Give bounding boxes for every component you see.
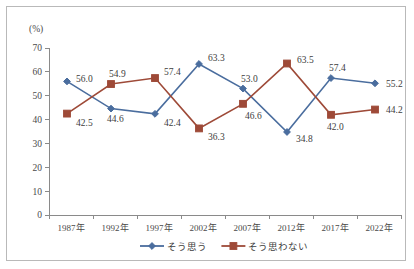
data-value-label: 44.2 (386, 105, 403, 115)
data-value-label: 42.0 (327, 122, 344, 132)
data-value-label: 63.5 (297, 55, 314, 65)
x-tick-label: 1997年 (146, 222, 173, 233)
data-value-label: 56.0 (76, 74, 93, 84)
y-tick-label: 0 (37, 210, 42, 220)
data-value-label: 54.9 (109, 69, 126, 79)
data-value-label: 44.6 (107, 114, 124, 124)
x-tick-label: 1992年 (102, 222, 129, 233)
data-point-marker-square (196, 125, 203, 132)
y-axis-unit-label: (%) (29, 24, 43, 35)
line-chart: (%)0102030405060701987年1992年1997年2002年20… (7, 7, 405, 260)
x-tick-label: 2002年 (190, 222, 217, 233)
x-tick-label: 1987年 (58, 222, 85, 233)
legend-label-2: そう思わない (248, 241, 308, 252)
data-value-label: 53.0 (241, 74, 258, 84)
data-point-marker-square (372, 106, 379, 113)
x-tick-label: 2017年 (322, 222, 349, 233)
legend-label-1: そう思う (167, 241, 207, 252)
data-point-marker-square (284, 60, 291, 67)
data-value-label: 57.4 (329, 63, 346, 73)
x-tick-label: 2007年 (234, 222, 261, 233)
data-value-label: 36.3 (208, 132, 225, 142)
data-value-label: 57.4 (164, 67, 181, 77)
data-value-label: 63.3 (208, 53, 225, 63)
data-point-marker-square (64, 110, 71, 117)
data-point-marker-diamond (372, 80, 379, 87)
data-point-marker-square (108, 81, 115, 88)
y-tick-label: 60 (33, 67, 43, 77)
data-point-marker-square (328, 111, 335, 118)
chart-frame: (%)0102030405060701987年1992年1997年2002年20… (6, 6, 406, 261)
y-tick-label: 70 (33, 43, 43, 53)
y-tick-label: 20 (33, 163, 43, 173)
data-point-marker-square (152, 75, 159, 82)
data-point-marker-square (240, 100, 247, 107)
x-tick-label: 2022年 (366, 222, 393, 233)
legend-marker-diamond (149, 243, 156, 250)
data-value-label: 34.8 (296, 134, 313, 144)
y-tick-label: 10 (33, 187, 43, 197)
data-value-label: 42.4 (164, 118, 181, 128)
data-value-label: 55.2 (386, 79, 403, 89)
data-value-label: 46.6 (245, 111, 262, 121)
data-value-label: 42.5 (76, 118, 93, 128)
y-tick-label: 50 (33, 91, 43, 101)
y-tick-label: 40 (33, 115, 43, 125)
y-tick-label: 30 (33, 139, 43, 149)
x-tick-label: 2012年 (278, 222, 305, 233)
legend-marker-square (230, 243, 237, 250)
